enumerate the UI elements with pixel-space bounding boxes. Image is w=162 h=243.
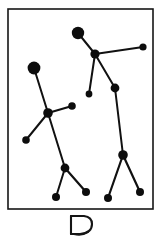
- chart-frame: [8, 9, 153, 209]
- constellation-figure: [0, 0, 162, 243]
- star-dot: [82, 188, 90, 196]
- star-dot: [72, 27, 84, 39]
- star-dot: [111, 84, 120, 93]
- star-dot: [22, 136, 30, 144]
- star-dot: [52, 193, 60, 201]
- letter-b-bowl: [71, 216, 92, 234]
- star-dot: [104, 194, 112, 202]
- star-dot: [139, 43, 146, 50]
- star-dot: [61, 164, 70, 173]
- star-dot: [68, 102, 76, 110]
- star-dot: [86, 91, 93, 98]
- constellation-card: B: [0, 0, 162, 243]
- star-dot: [90, 49, 99, 58]
- star-dot: [43, 108, 53, 118]
- star-dot: [28, 62, 41, 75]
- star-dot: [136, 188, 144, 196]
- panel-label-b: [71, 216, 92, 235]
- star-dot: [118, 150, 128, 160]
